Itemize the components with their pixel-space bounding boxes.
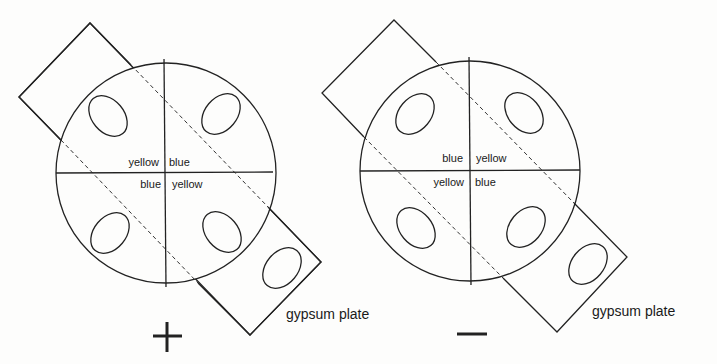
label-upper-right: blue <box>169 156 190 168</box>
plus-sign <box>153 322 182 352</box>
label-lower-right: blue <box>475 176 496 188</box>
label-upper-left: blue <box>442 152 463 164</box>
indicatrix-ellipse <box>255 240 309 296</box>
gypsum-plate-label: gypsum plate <box>286 306 369 322</box>
gypsum-plate-diagram: yellow blue blue yellow gypsum plate blu… <box>0 0 717 364</box>
panel-positive: yellow blue blue yellow gypsum plate <box>19 23 369 352</box>
label-upper-right: yellow <box>476 152 507 164</box>
panel-negative: blue yellow yellow blue gypsum plate <box>322 20 675 334</box>
indicatrix-ellipse <box>561 236 615 292</box>
label-lower-left: blue <box>140 178 161 190</box>
label-upper-left: yellow <box>128 156 159 168</box>
gypsum-plate-label: gypsum plate <box>592 303 675 319</box>
label-lower-left: yellow <box>433 176 464 188</box>
label-lower-right: yellow <box>172 178 203 190</box>
